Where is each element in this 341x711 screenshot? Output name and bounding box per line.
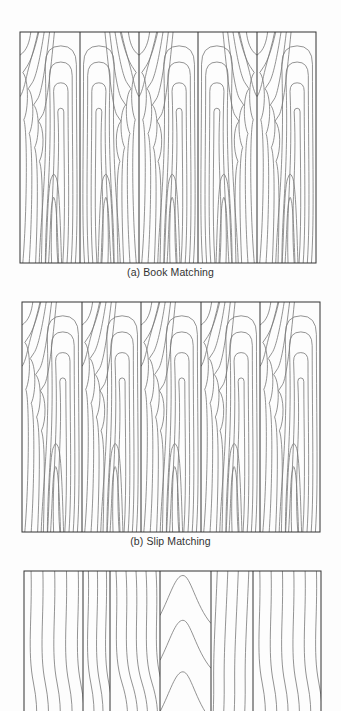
veneer-plank xyxy=(212,571,249,711)
veneer-matching-figure: (a) Book Matching (b) Slip Matching xyxy=(0,0,341,711)
random-matching-diagram xyxy=(0,0,341,711)
veneer-plank xyxy=(88,571,113,711)
veneer-plank xyxy=(259,571,322,711)
veneer-plank xyxy=(160,575,211,711)
veneer-plank xyxy=(30,571,84,711)
panel-frame xyxy=(24,571,321,711)
